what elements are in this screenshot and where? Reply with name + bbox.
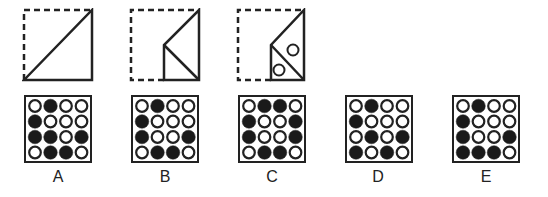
filled-hole	[242, 130, 256, 144]
empty-hole	[136, 100, 148, 112]
option-d-label: D	[358, 168, 398, 186]
empty-hole	[350, 100, 362, 112]
filled-hole	[151, 99, 165, 113]
filled-hole	[59, 146, 73, 160]
fold-step-3-figure	[236, 8, 308, 82]
fold-step-1-figure	[22, 8, 94, 82]
empty-hole	[488, 116, 500, 128]
option-b-grid[interactable]	[131, 95, 199, 163]
filled-hole	[151, 146, 165, 160]
empty-hole	[60, 116, 72, 128]
empty-hole	[381, 116, 393, 128]
filled-hole	[182, 130, 196, 144]
empty-hole	[457, 100, 469, 112]
filled-hole	[349, 146, 363, 160]
filled-hole	[258, 99, 272, 113]
empty-hole	[167, 131, 179, 143]
empty-hole	[60, 131, 72, 143]
filled-hole	[44, 99, 58, 113]
option-d-grid[interactable]	[345, 95, 413, 163]
empty-hole	[243, 147, 255, 159]
filled-hole	[487, 146, 501, 160]
empty-hole	[397, 116, 409, 128]
filled-hole	[75, 130, 89, 144]
empty-hole	[473, 131, 485, 143]
empty-hole	[350, 131, 362, 143]
filled-hole	[28, 130, 42, 144]
filled-hole	[349, 115, 363, 129]
option-c-label: C	[252, 168, 292, 186]
option-a-grid[interactable]	[24, 95, 92, 163]
filled-hole	[242, 115, 256, 129]
filled-hole	[289, 115, 303, 129]
empty-hole	[259, 131, 271, 143]
empty-hole	[290, 147, 302, 159]
empty-hole	[183, 147, 195, 159]
filled-hole	[456, 146, 470, 160]
empty-hole	[183, 116, 195, 128]
fold-step-2-figure	[129, 8, 201, 82]
punched-hole	[288, 45, 299, 56]
filled-hole	[380, 146, 394, 160]
empty-hole	[397, 100, 409, 112]
empty-hole	[60, 100, 72, 112]
filled-hole	[365, 130, 379, 144]
filled-hole	[258, 146, 272, 160]
empty-hole	[45, 116, 57, 128]
option-c-grid[interactable]	[238, 95, 306, 163]
filled-hole	[28, 115, 42, 129]
empty-hole	[504, 116, 516, 128]
empty-hole	[76, 100, 88, 112]
filled-hole	[289, 130, 303, 144]
option-a-label: A	[38, 168, 78, 186]
empty-hole	[167, 100, 179, 112]
empty-hole	[274, 131, 286, 143]
filled-hole	[44, 146, 58, 160]
empty-hole	[259, 116, 271, 128]
empty-hole	[504, 147, 516, 159]
filled-hole	[135, 115, 149, 129]
empty-hole	[243, 100, 255, 112]
empty-hole	[397, 147, 409, 159]
empty-hole	[381, 131, 393, 143]
option-b-label: B	[145, 168, 185, 186]
filled-hole	[365, 99, 379, 113]
empty-hole	[488, 100, 500, 112]
empty-hole	[183, 100, 195, 112]
empty-hole	[152, 131, 164, 143]
filled-hole	[166, 146, 180, 160]
empty-hole	[366, 147, 378, 159]
empty-hole	[167, 116, 179, 128]
empty-hole	[76, 116, 88, 128]
filled-hole	[396, 130, 410, 144]
empty-hole	[473, 116, 485, 128]
empty-hole	[76, 147, 88, 159]
empty-hole	[381, 100, 393, 112]
filled-hole	[44, 130, 58, 144]
filled-hole	[472, 99, 486, 113]
filled-hole	[135, 130, 149, 144]
empty-hole	[366, 116, 378, 128]
empty-hole	[504, 100, 516, 112]
empty-hole	[274, 116, 286, 128]
empty-hole	[290, 100, 302, 112]
filled-hole	[273, 146, 287, 160]
empty-hole	[29, 147, 41, 159]
filled-hole	[273, 99, 287, 113]
filled-hole	[503, 130, 517, 144]
empty-hole	[488, 131, 500, 143]
filled-hole	[456, 115, 470, 129]
option-e-label: E	[466, 168, 506, 186]
filled-hole	[456, 130, 470, 144]
option-e-grid[interactable]	[452, 95, 520, 163]
empty-hole	[29, 100, 41, 112]
punched-hole	[274, 65, 285, 76]
empty-hole	[136, 147, 148, 159]
filled-hole	[472, 146, 486, 160]
empty-hole	[152, 116, 164, 128]
